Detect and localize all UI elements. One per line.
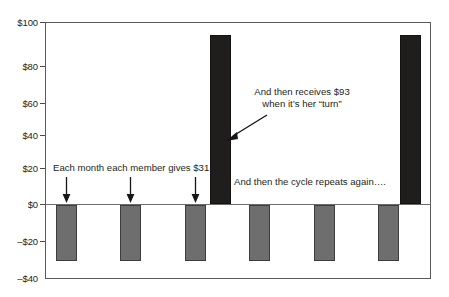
bar-negative-month-5 [314, 205, 335, 261]
y-tick-label-100: $100 [0, 17, 38, 28]
y-tick-mark-20 [40, 168, 45, 169]
zero-baseline [45, 204, 431, 205]
annotation-contribution-note: Each month each member gives $31 [53, 162, 209, 174]
arrow-down-icon-2 [126, 177, 135, 204]
bar-negative-month-3 [185, 205, 206, 261]
bar-negative-month-1 [56, 205, 77, 261]
y-tick-label-80: $80 [0, 61, 38, 72]
annotation-payout-note-line-2: when it’s her “turn” [240, 98, 364, 110]
y-tick-mark-80 [40, 66, 45, 67]
y-tick-label-0: $0 [0, 199, 38, 210]
y-tick-label-40: $40 [0, 130, 38, 141]
arrow-down-icon-1 [62, 177, 71, 204]
chart-container: $100 $80 $60 $40 $20 $0 –$20 –$40 Each m… [0, 0, 449, 297]
y-tick-label-60: $60 [0, 98, 38, 109]
bar-positive-month-6 [400, 35, 421, 204]
y-tick-mark-60 [40, 103, 45, 104]
y-tick-mark-40 [40, 135, 45, 136]
bar-negative-month-4 [249, 205, 270, 261]
arrow-diagonal-icon [222, 112, 270, 146]
y-tick-label-20: $20 [0, 163, 38, 174]
y-tick-mark-100 [40, 22, 45, 23]
y-tick-mark-neg20 [40, 241, 45, 242]
annotation-payout-note-line-1: And then receives $93 [240, 86, 364, 98]
plot-area [45, 22, 431, 279]
arrow-down-icon-3 [191, 177, 200, 204]
bar-negative-month-6 [378, 205, 399, 261]
annotation-cycle-note: And then the cycle repeats again…. [234, 176, 386, 188]
y-tick-label-neg20: –$20 [0, 236, 38, 247]
bar-negative-month-2 [120, 205, 141, 261]
y-tick-label-neg40: –$40 [0, 273, 38, 284]
